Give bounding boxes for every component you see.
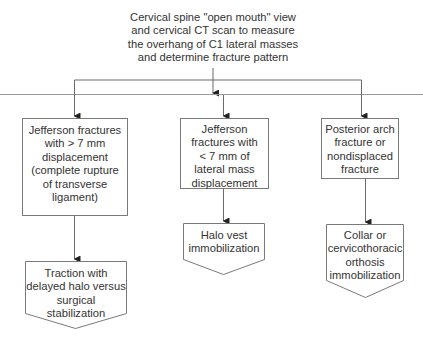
- condition-text-jefferson-gt7: Jefferson fractures with > 7 mm displace…: [23, 124, 127, 204]
- left-branch-connector: [75, 80, 214, 116]
- condition-text-posterior-arch: Posterior arch fracture or nondisplaced …: [322, 123, 398, 177]
- root-node-text: Cervical spine "open mouth" view and cer…: [113, 11, 313, 65]
- treatment-text-halo-vest: Halo vest immobilization: [184, 229, 264, 256]
- treatment-text-traction: Traction with delayed halo versus surgic…: [26, 267, 126, 321]
- flowchart-canvas: Cervical spine "open mouth" view and cer…: [0, 0, 423, 340]
- condition-text-jefferson-lt7: Jefferson fractures with < 7 mm of later…: [181, 123, 268, 190]
- treatment-text-collar: Collar or cervicothoracic orthosis immob…: [327, 229, 403, 283]
- right-branch-connector: [213, 80, 362, 116]
